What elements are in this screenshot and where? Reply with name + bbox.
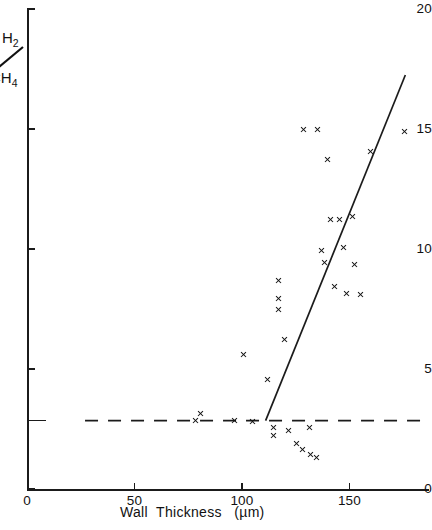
data-point [357,291,364,298]
x-tick-label-0: 0 [7,494,47,508]
y-axis-label-denominator-text: CH [0,69,12,86]
data-point [270,424,277,431]
x-tick-100 [241,483,243,490]
data-point [249,418,256,425]
data-point [340,244,347,251]
y-tick-label-10: 10 [410,242,432,256]
y-tick-5 [28,368,35,370]
data-point [314,126,321,133]
x-tick-50 [134,483,136,490]
data-point [321,259,328,266]
data-point [349,213,356,220]
data-point [324,156,331,163]
data-point [197,410,204,417]
x-tick-150 [349,483,351,490]
x-axis-line [27,489,429,491]
y-axis-label-numerator-text: H [2,29,13,46]
data-point [231,417,238,424]
data-point [336,216,343,223]
data-point [270,432,277,439]
y-tick-10 [28,248,35,250]
y-axis-label: H2 CH4 [0,30,38,88]
y-axis-label-denominator-subscript: 4 [12,77,18,89]
data-point [281,336,288,343]
data-point [343,290,350,297]
y-tick-baseline [28,420,46,422]
data-point [264,376,271,383]
data-point [275,306,282,313]
fraction-slash-icon [0,46,26,68]
plot-area [0,0,432,530]
data-point [351,261,358,268]
data-point [318,247,325,254]
x-tick-label-150: 150 [329,494,369,508]
y-tick-0 [28,488,35,490]
x-tick-label-100: 100 [222,494,262,508]
y-tick-label-0: 0 [410,482,432,496]
data-point [299,446,306,453]
data-point [331,283,338,290]
chart-figure: H2 CH4 Wall Thickness (µm) 0510152005010… [0,0,432,530]
data-point [275,295,282,302]
y-tick-label-15: 15 [410,122,432,136]
y-tick-label-5: 5 [410,362,432,376]
y-tick-label-20: 20 [410,2,432,16]
y-tick-15 [28,128,35,130]
data-point [275,277,282,284]
data-point [327,216,334,223]
data-point [401,128,408,135]
y-tick-20 [28,8,35,10]
data-point [300,126,307,133]
data-point [285,427,292,434]
data-point [313,454,320,461]
data-point [240,351,247,358]
x-tick-label-50: 50 [114,494,154,508]
data-point [192,417,199,424]
data-point [367,148,374,155]
y-axis-label-denominator: CH4 [0,70,18,91]
data-point [306,424,313,431]
fitted-line [266,75,406,421]
